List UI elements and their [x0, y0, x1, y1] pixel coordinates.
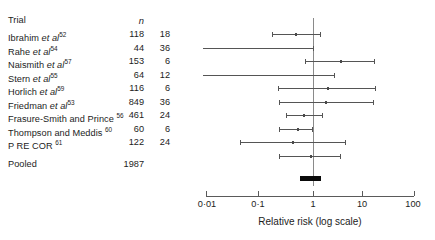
x-axis-line — [206, 196, 414, 197]
ci-cap-right — [312, 127, 313, 132]
x-axis-tick — [414, 191, 415, 196]
ci-cap-left — [240, 140, 241, 145]
ci-cap-left — [279, 127, 280, 132]
ci-cap-left — [286, 113, 287, 118]
point-estimate-marker — [292, 141, 294, 144]
x-axis-tick-label: 100 — [393, 199, 433, 209]
point-estimate-marker — [297, 128, 299, 131]
x-axis-title: Relative risk (log scale) — [206, 216, 414, 227]
ci-cap-right — [320, 32, 321, 37]
x-axis-tick — [362, 191, 363, 196]
confidence-interval-line — [203, 48, 313, 49]
ci-cap-right — [373, 100, 374, 105]
pooled-estimate-marker — [300, 176, 321, 181]
plot-area: 0·01 0·1 1 10 100 Relative risk (log sca… — [0, 0, 435, 240]
ci-cap-right — [334, 73, 335, 78]
x-axis-tick-label: 0·1 — [238, 199, 278, 209]
ci-cap-right — [340, 154, 341, 159]
point-estimate-marker — [325, 101, 327, 104]
point-estimate-marker — [295, 33, 297, 36]
x-axis-tick-label: 10 — [342, 199, 382, 209]
ci-cap-right — [374, 59, 375, 64]
ci-cap-right — [322, 113, 323, 118]
ci-cap-left — [272, 32, 273, 37]
confidence-interval-line — [203, 75, 334, 76]
x-axis-tick-label: 0·01 — [187, 199, 227, 209]
x-axis-tick — [206, 191, 207, 196]
ci-cap-right — [375, 86, 376, 91]
point-estimate-marker — [310, 155, 312, 158]
ci-cap-left — [279, 154, 280, 159]
confidence-interval-line — [279, 129, 312, 130]
point-estimate-marker — [303, 114, 305, 117]
x-axis-tick-label: 1 — [293, 199, 333, 209]
ci-cap-left — [305, 59, 306, 64]
ci-cap-left — [279, 100, 280, 105]
forest-plot-figure: Trial n Ibrahim et al52 118 18 Rahe et a… — [0, 0, 435, 240]
point-estimate-marker — [327, 87, 329, 90]
ci-cap-right — [345, 140, 346, 145]
x-axis-tick — [313, 191, 314, 196]
point-estimate-marker — [340, 60, 342, 63]
ci-cap-left — [278, 86, 279, 91]
ci-cap-right — [313, 46, 314, 51]
x-axis-tick — [258, 191, 259, 196]
